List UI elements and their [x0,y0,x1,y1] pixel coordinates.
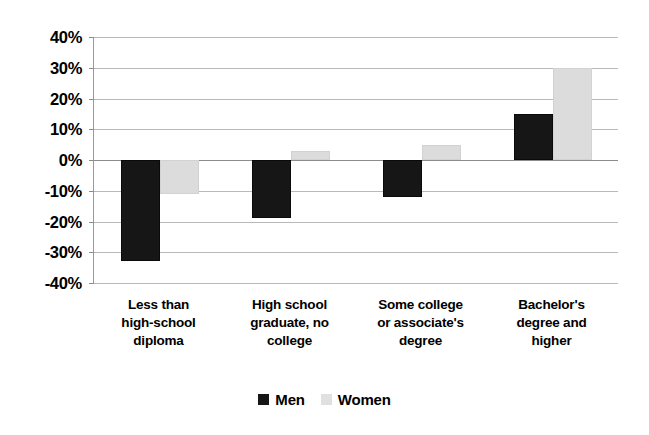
y-axis-tick-label: -20% [12,214,82,231]
bar-women-3 [553,68,592,160]
gridline [94,99,618,100]
legend-item-women: Women [321,392,391,407]
bar-women-1 [291,151,330,160]
bar-women-0 [160,160,199,194]
legend-label-women: Women [338,392,391,407]
legend-item-men: Men [258,392,304,407]
bar-men-2 [383,160,422,197]
bar-men-3 [514,114,553,160]
bar-chart: 40%30%20%10%0%-10%-20%-30%-40% Less than… [0,0,649,435]
y-axis-tick [89,160,94,161]
gridline [94,283,618,284]
category-label-line: graduate, no [224,314,355,332]
y-axis-tick [89,252,94,253]
bar-men-1 [252,160,291,218]
gridline [94,252,618,253]
category-label-line: Some college [355,296,486,314]
y-axis-tick-label: 30% [12,60,82,77]
y-axis-tick-label: -40% [12,275,82,292]
plot-area [93,37,617,283]
category-label-line: diploma [93,332,224,350]
y-axis-tick [89,191,94,192]
category-label-line: higher [486,332,617,350]
category-label-0: Less thanhigh-schooldiploma [93,296,224,349]
category-label-line: high-school [93,314,224,332]
bar-women-2 [422,145,461,160]
y-axis-tick [89,37,94,38]
y-axis-tick-label: 0% [12,152,82,169]
category-label-line: degree [355,332,486,350]
y-axis-tick [89,68,94,69]
y-axis-tick [89,99,94,100]
y-axis-tick [89,283,94,284]
category-label-2: Some collegeor associate'sdegree [355,296,486,349]
gridline [94,68,618,69]
gridline [94,222,618,223]
category-label-line: or associate's [355,314,486,332]
category-label-line: degree and [486,314,617,332]
category-label-line: Bachelor's [486,296,617,314]
men-swatch-icon [258,394,269,405]
y-axis-tick-label: 20% [12,91,82,108]
category-label-line: High school [224,296,355,314]
gridline [94,37,618,38]
category-label-3: Bachelor'sdegree andhigher [486,296,617,349]
y-axis-tick [89,129,94,130]
women-swatch-icon [321,394,332,405]
bar-men-0 [121,160,160,261]
y-axis-tick [89,222,94,223]
y-axis-tick-label: 40% [12,29,82,46]
y-axis-tick-label: -10% [12,183,82,200]
category-label-line: Less than [93,296,224,314]
category-label-line: college [224,332,355,350]
category-label-1: High schoolgraduate, nocollege [224,296,355,349]
legend-label-men: Men [275,392,304,407]
legend: Men Women [0,392,649,407]
y-axis-tick-label: 10% [12,121,82,138]
y-axis-tick-label: -30% [12,244,82,261]
